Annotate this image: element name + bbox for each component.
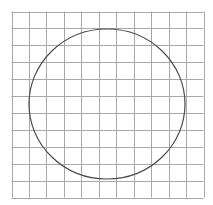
grid-circle-figure	[0, 0, 213, 205]
grid	[12, 12, 205, 199]
circle	[29, 29, 185, 179]
